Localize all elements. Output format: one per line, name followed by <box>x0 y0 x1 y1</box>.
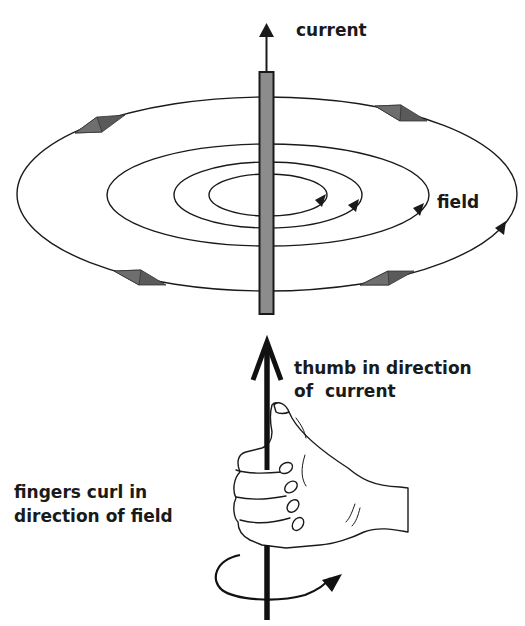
current-arrow-icon <box>259 23 274 72</box>
thumb-direction-label: thumb in direction of current <box>294 357 472 403</box>
fingers-label-line2: direction of field <box>14 504 173 528</box>
current-label: current <box>296 20 367 40</box>
loop-markers <box>75 105 427 285</box>
fingers-label-line1: fingers curl in <box>14 480 173 504</box>
wire-rod <box>260 72 274 314</box>
right-hand-icon <box>234 403 408 548</box>
thumb-label-line2: of current <box>294 380 472 403</box>
arrow-icon <box>348 199 359 212</box>
right-hand-rule-diagram <box>0 0 525 626</box>
thumb-label-line1: thumb in direction <box>294 357 472 380</box>
fingers-curl-label: fingers curl in direction of field <box>14 480 173 528</box>
field-label: field <box>437 192 479 212</box>
curl-direction-arrow-icon <box>216 555 342 600</box>
